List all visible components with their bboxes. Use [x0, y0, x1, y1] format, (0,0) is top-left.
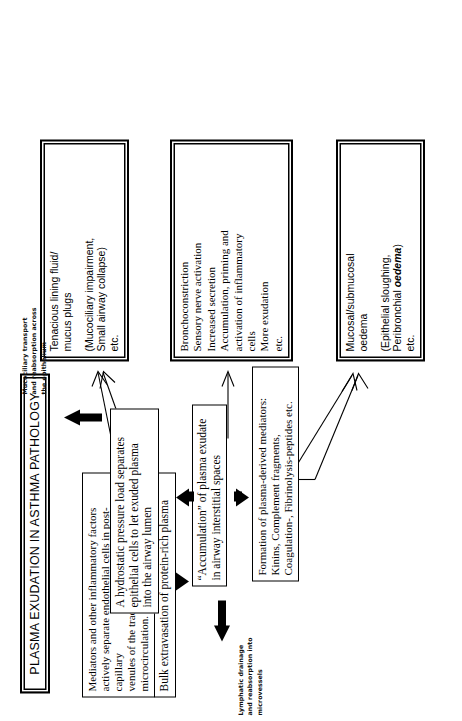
annotation-mucociliary: Mucociliary transport and reabsorption a…: [20, 244, 48, 394]
node-hydrostatic: A hydrostatic pressure load separates ep…: [110, 408, 159, 613]
outcome-bronchoconstriction: Bronchoconstriction Sensory nerve activa…: [170, 139, 293, 361]
annotation-lymphatic: Lymphatic drainage and reabsorption into…: [236, 585, 264, 715]
node-mediators-line1: Mediators and other inflammatory factors: [86, 478, 99, 691]
outcome-oedema-main-line1: Mucosal/submucosal: [344, 149, 357, 351]
figure-canvas: PLASMA EXUDATION IN ASTHMA PATHOLOGY Med…: [0, 0, 462, 721]
outcome-tenacious-sub-line1: (Mucociliary impairment,: [83, 149, 96, 351]
outcome-bronchoconstriction-line5: activation of inflammatory: [232, 149, 245, 351]
node-plasma-mediators-line2: Kinins, Complement fragments,: [269, 372, 282, 575]
outcome-tenacious-sub-line3: etc.: [108, 149, 121, 351]
node-hydrostatic-line3: into the airway lumen: [141, 414, 155, 607]
outcome-bronchoconstriction-line3: Increased secretion: [205, 149, 218, 351]
figure-title: PLASMA EXUDATION IN ASTHMA PATHOLOGY: [20, 373, 50, 693]
block-arrow-accumulation-to-hydrostatic: [176, 488, 189, 506]
block-arrow-extravasation-to-accumulation: [176, 572, 189, 590]
node-hydrostatic-line2: epithelial cells to let exuded plasma: [128, 414, 142, 607]
node-accumulation: “Accumulation” of plasma exudate in airw…: [192, 404, 227, 586]
block-arrow-mucociliary-head: [64, 409, 80, 425]
outcome-bronchoconstriction-line7: More exudation: [258, 149, 271, 351]
node-plasma-mediators-line3: Coagulation-, Fibrinolysis-peptides etc.: [282, 372, 295, 575]
block-arrow-mucociliary: [78, 413, 102, 421]
node-extravasation-text: Bulk extravasation of protein-rich plasm…: [158, 478, 172, 691]
annotation-lymphatic-line2: and reabsorption into: [245, 585, 254, 715]
block-arrow-accumulation-to-plasma-mediators: [236, 488, 249, 506]
outcome-bronchoconstriction-line6: cells: [245, 149, 258, 351]
node-hydrostatic-line1: A hydrostatic pressure load separates: [114, 414, 128, 607]
node-accumulation-line2: in airway interstitial spaces: [210, 410, 224, 580]
outcome-tenacious-sub-line2: Small airway collapse): [95, 149, 108, 351]
annotation-mucociliary-line2: and reabsorption across: [29, 244, 38, 394]
outcome-tenacious-main-line1: Tenacious lining fluid/: [48, 149, 61, 351]
outcome-bronchoconstriction-line2: Sensory nerve activation: [191, 149, 204, 351]
annotation-lymphatic-line1: Lymphatic drainage: [236, 585, 245, 715]
outcome-oedema-main-line2: oedema: [357, 149, 370, 351]
outcome-bronchoconstriction-line4: Accumulation, priming and: [218, 149, 231, 351]
outcome-tenacious-main-line2: mucus plugs: [61, 149, 74, 351]
outcome-bronchoconstriction-line8: etc.: [272, 149, 285, 351]
outcome-oedema-sub-line2-post: ): [391, 244, 403, 248]
outcome-oedema-sub-line3: etc.: [404, 149, 417, 351]
node-accumulation-line1: “Accumulation” of plasma exudate: [196, 410, 210, 580]
annotation-mucociliary-line1: Mucociliary transport: [20, 244, 29, 394]
block-arrow-lymphatic: [218, 600, 226, 626]
outcome-oedema-sub-line2-pre: Peribronchial: [391, 287, 403, 351]
node-plasma-mediators: Formation of plasma-derived mediators: K…: [252, 366, 299, 581]
outcome-oedema-sub-line2: Peribronchial oedema): [391, 149, 404, 351]
outcome-oedema-sub-line1: (Epithelial sloughing,: [379, 149, 392, 351]
node-plasma-mediators-line1: Formation of plasma-derived mediators:: [256, 372, 269, 575]
outcome-bronchoconstriction-line1: Bronchoconstriction: [178, 149, 191, 351]
outcome-oedema-sub-line2-emphasis: oedema: [391, 247, 403, 287]
annotation-lymphatic-line3: microvessels: [255, 585, 264, 715]
outcome-oedema: Mucosal/submucosal oedema (Epithelial sl…: [336, 139, 425, 361]
annotation-mucociliary-line3: the epithelium: [39, 244, 48, 394]
outcome-tenacious: Tenacious lining fluid/ mucus plugs (Muc…: [40, 139, 129, 361]
block-arrow-lymphatic-head: [214, 625, 230, 641]
